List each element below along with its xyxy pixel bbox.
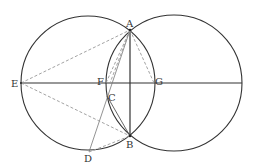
line-a-d (89, 30, 130, 152)
point-e (20, 82, 22, 84)
label-d: D (84, 153, 92, 164)
dashed-e-b (21, 83, 130, 136)
point-b (129, 135, 132, 138)
dashed-a-f (106, 30, 130, 83)
label-e: E (11, 78, 18, 89)
label-f: F (97, 76, 104, 87)
dashed-e-a (21, 30, 130, 83)
geometry-diagram: A B C D E F G (0, 0, 255, 167)
dashed-a-g (130, 30, 154, 83)
label-b: B (126, 139, 133, 150)
label-c: C (108, 92, 116, 103)
point-a (129, 29, 132, 32)
label-a: A (125, 18, 134, 29)
label-g: G (155, 76, 163, 87)
dashed-d-b (89, 136, 130, 152)
